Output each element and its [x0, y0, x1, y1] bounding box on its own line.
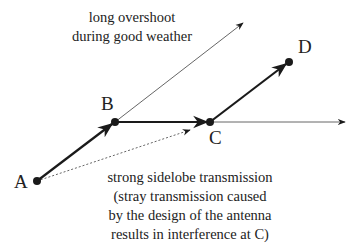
- edge-c-d: [210, 64, 286, 122]
- label-a: A: [14, 171, 28, 192]
- sidelobe-note-line4: results in interference at C): [111, 226, 269, 243]
- label-c: C: [209, 127, 222, 148]
- sidelobe-note-line1: strong sidelobe transmission: [107, 169, 273, 185]
- node-a: [33, 177, 41, 185]
- label-b: B: [101, 93, 114, 114]
- label-d: D: [298, 36, 312, 57]
- edge-a-b: [37, 124, 112, 181]
- node-b: [111, 118, 119, 126]
- node-d: [285, 58, 293, 66]
- overshoot-note-line1: long overshoot: [89, 9, 176, 25]
- sidelobe-note-line2: (stray transmission caused: [113, 188, 267, 205]
- node-c: [206, 118, 214, 126]
- sidelobe-note-line3: by the design of the antenna: [108, 207, 272, 223]
- overshoot-note-line2: during good weather: [72, 28, 192, 44]
- relay-diagram: A B C D long overshoot during good weath…: [0, 0, 355, 249]
